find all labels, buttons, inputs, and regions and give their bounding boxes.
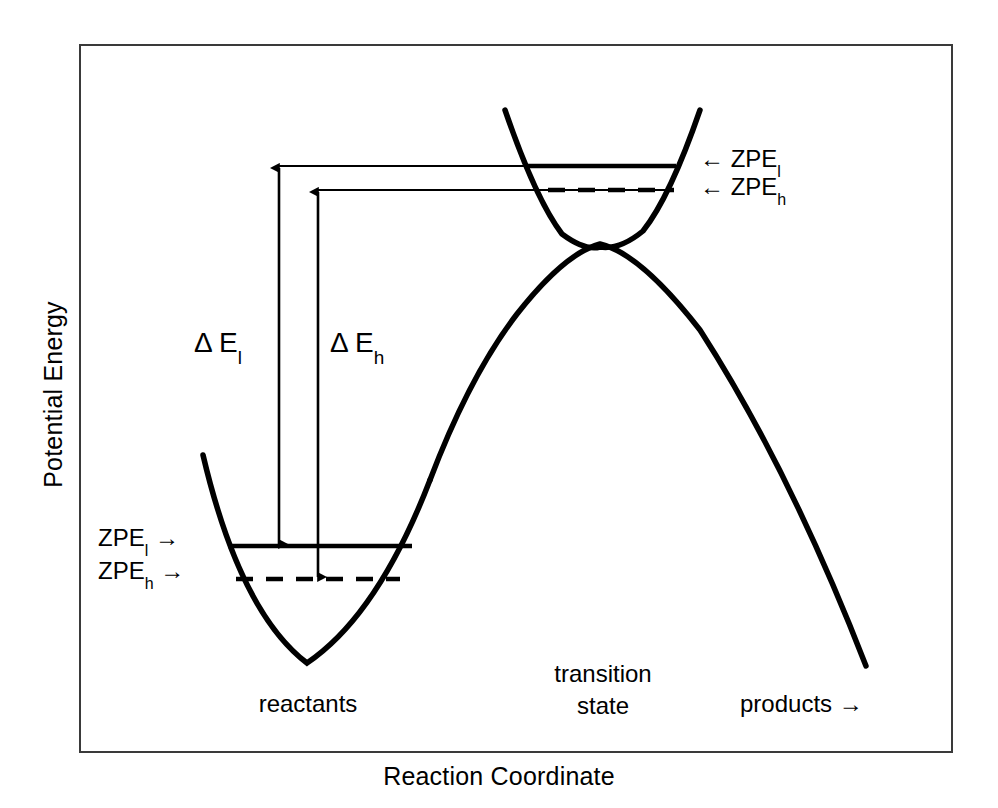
transition-state-well-curve xyxy=(505,110,700,248)
zpe-heavy-left-arrow-icon: → xyxy=(154,557,185,584)
reaction-profile-plot xyxy=(0,0,998,808)
zpe-heavy-left-text: ZPE xyxy=(98,557,145,584)
y-axis-label: Potential Energy xyxy=(39,245,68,545)
zpe-light-right-arrow-icon: ← xyxy=(700,145,731,172)
delta-e-l-label: Δ El xyxy=(194,327,242,364)
x-axis-label: Reaction Coordinate xyxy=(0,762,998,791)
delta-e-h-label: Δ Eh xyxy=(330,327,384,364)
zpe-heavy-left-subscript: h xyxy=(145,575,154,592)
energy-profile-figure: Potential Energy Reaction Coordinate Δ E… xyxy=(0,0,998,808)
zpe-heavy-right-subscript: h xyxy=(777,191,786,208)
zpe-light-left-arrow-icon: → xyxy=(148,524,179,551)
delta-e-l-subscript: l xyxy=(238,347,242,368)
zpe-light-left-text: ZPE xyxy=(98,524,145,551)
delta-e-l-text: Δ E xyxy=(194,327,238,358)
zpe-heavy-right-text: ZPE xyxy=(731,173,778,200)
transition-state-label-line1: transition xyxy=(508,658,698,690)
delta-e-h-text: Δ E xyxy=(330,327,374,358)
plot-frame xyxy=(80,45,952,752)
barrier-curve xyxy=(430,244,866,666)
transition-state-label: transition state xyxy=(508,658,698,722)
delta-e-h-subscript: h xyxy=(374,347,385,368)
zpe-light-right-text: ZPE xyxy=(731,145,778,172)
transition-state-label-line2: state xyxy=(508,690,698,722)
zpe-heavy-right-label: ← ZPEh xyxy=(700,173,786,205)
zpe-light-left-label: ZPEl → xyxy=(98,524,179,556)
reactant-well-curve xyxy=(203,455,430,663)
reactants-label: reactants xyxy=(200,690,416,718)
products-label: products → xyxy=(740,690,960,718)
zpe-heavy-left-label: ZPEh → xyxy=(98,557,184,589)
zpe-heavy-right-arrow-icon: ← xyxy=(700,173,731,200)
